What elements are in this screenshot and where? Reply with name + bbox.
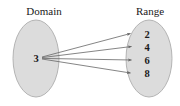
range-element-2: 2 [144, 29, 149, 40]
range-label: Range [136, 5, 164, 17]
range-element-6: 6 [144, 55, 149, 66]
domain-label: Domain [26, 5, 62, 17]
range-element-4: 4 [144, 42, 150, 53]
range-element-8: 8 [144, 68, 149, 79]
domain-element-3: 3 [33, 53, 38, 64]
mapping-diagram-canvas: Domain Range 3 2 4 6 8 [0, 0, 180, 106]
mapping-diagram: Domain Range 3 2 4 6 8 [0, 0, 180, 106]
